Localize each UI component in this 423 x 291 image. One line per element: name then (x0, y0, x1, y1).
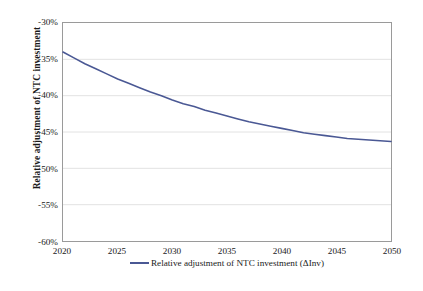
plot-area (62, 22, 392, 242)
chart-container: Relative adjustment of NTC investment -3… (0, 0, 423, 291)
x-tick-label: 2020 (32, 246, 92, 256)
y-tick-label: -50% (0, 164, 58, 174)
x-tick-label: 2045 (307, 246, 367, 256)
legend-item: Relative adjustment of NTC investment (Δ… (130, 258, 324, 268)
x-tick-label: 2050 (362, 246, 422, 256)
y-tick-label: -30% (0, 17, 58, 27)
legend-item-label: Relative adjustment of NTC investment (Δ… (151, 258, 324, 268)
x-tick-label: 2025 (87, 246, 147, 256)
data-series-line (63, 52, 391, 141)
y-tick-label: -55% (0, 200, 58, 210)
chart-legend: Relative adjustment of NTC investment (Δ… (62, 258, 392, 268)
y-tick-label: -45% (0, 127, 58, 137)
y-tick-label: -35% (0, 54, 58, 64)
series-svg (63, 23, 391, 241)
y-tick-label: -40% (0, 90, 58, 100)
y-axis-tick-labels: -30%-35%-40%-45%-50%-55%-60% (0, 22, 58, 242)
legend-line-swatch (130, 262, 149, 264)
x-tick-label: 2040 (252, 246, 312, 256)
gridlines-group (63, 59, 391, 204)
x-tick-label: 2030 (142, 246, 202, 256)
x-tick-label: 2035 (197, 246, 257, 256)
